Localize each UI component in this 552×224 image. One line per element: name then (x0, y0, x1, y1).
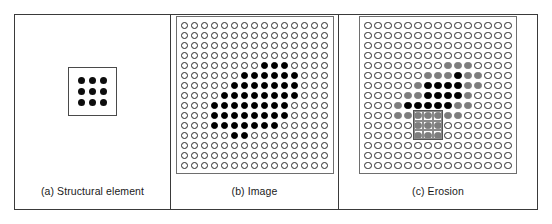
grid-cell (433, 150, 443, 160)
grid-cell (200, 140, 210, 150)
grid-cell (403, 110, 413, 120)
grid-cell (433, 60, 443, 70)
filled-dot (251, 112, 259, 120)
empty-dot (211, 152, 219, 160)
grid-cell (443, 70, 453, 80)
empty-dot (494, 162, 502, 170)
empty-dot (474, 152, 482, 160)
empty-dot (181, 122, 189, 130)
empty-dot (494, 122, 502, 130)
grid-cell (250, 30, 260, 40)
grid-cell (403, 30, 413, 40)
grid-cell (220, 90, 230, 100)
grid-cell (210, 140, 220, 150)
grid-cell (290, 70, 300, 80)
grid-cell (270, 160, 280, 170)
empty-dot (241, 52, 249, 60)
grid-cell (363, 120, 373, 130)
empty-dot (311, 132, 319, 140)
grid-cell (493, 140, 503, 150)
empty-dot (201, 142, 209, 150)
grid-cell (250, 50, 260, 60)
grid-cell (320, 110, 330, 120)
grid-cell (180, 150, 190, 160)
grid-cell (190, 40, 200, 50)
empty-dot (191, 32, 199, 40)
empty-dot (424, 22, 432, 30)
grid-cell (300, 160, 310, 170)
grid-cell (210, 70, 220, 80)
empty-dot (474, 112, 482, 120)
empty-dot (301, 52, 309, 60)
empty-dot (311, 112, 319, 120)
empty-dot (181, 32, 189, 40)
empty-dot (374, 102, 382, 110)
empty-dot (231, 62, 239, 70)
filled-dot (261, 92, 269, 100)
grid-cell (363, 70, 373, 80)
grid-cell (220, 70, 230, 80)
filled-dot (444, 102, 452, 110)
grid-cell (493, 130, 503, 140)
grid-cell (280, 70, 290, 80)
grid-cell (473, 120, 483, 130)
filled-dot (291, 82, 299, 90)
empty-dot (251, 42, 259, 50)
empty-dot (301, 102, 309, 110)
empty-dot (311, 92, 319, 100)
empty-dot (241, 142, 249, 150)
grid-cell (260, 30, 270, 40)
empty-dot (394, 72, 402, 80)
filled-dot (424, 82, 432, 90)
empty-dot (241, 152, 249, 160)
grid-cell (220, 80, 230, 90)
grid-cell (290, 20, 300, 30)
empty-dot (504, 132, 512, 140)
eroded-dot (424, 122, 432, 130)
grid-cell (320, 100, 330, 110)
grid-cell (423, 100, 433, 110)
empty-dot (494, 92, 502, 100)
grid-cell (373, 80, 383, 90)
panel-b-body (171, 15, 338, 186)
grid-cell (403, 80, 413, 90)
grid-cell (190, 30, 200, 40)
grid-cell (393, 80, 403, 90)
empty-dot (454, 32, 462, 40)
grid-cell (240, 60, 250, 70)
empty-dot (484, 122, 492, 130)
grid-cell (180, 110, 190, 120)
se-cell-0-2 (98, 75, 109, 86)
empty-dot (281, 132, 289, 140)
grid-cell (280, 140, 290, 150)
grid-cell (250, 40, 260, 50)
grid-cell (423, 50, 433, 60)
grid-cell (453, 100, 463, 110)
grid-cell (280, 110, 290, 120)
empty-dot (201, 122, 209, 130)
grid-cell (393, 130, 403, 140)
empty-dot (241, 162, 249, 170)
grid-cell (423, 90, 433, 100)
empty-dot (241, 62, 249, 70)
empty-dot (504, 72, 512, 80)
grid-cell (483, 110, 493, 120)
eroded-dot (454, 112, 462, 120)
grid-cell (453, 30, 463, 40)
empty-dot (374, 122, 382, 130)
grid-cell (373, 40, 383, 50)
grid-cell (280, 20, 290, 30)
grid-cell (180, 80, 190, 90)
empty-dot (211, 72, 219, 80)
empty-dot (384, 122, 392, 130)
grid-cell (503, 130, 513, 140)
empty-dot (454, 142, 462, 150)
grid-cell (180, 160, 190, 170)
eroded-dot (464, 62, 472, 70)
grid-cell (473, 80, 483, 90)
empty-dot (311, 162, 319, 170)
grid-cell (453, 40, 463, 50)
empty-dot (374, 32, 382, 40)
empty-dot (201, 132, 209, 140)
grid-cell (230, 130, 240, 140)
